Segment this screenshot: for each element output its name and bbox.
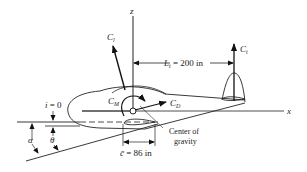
z-axis-label: z [129,6,134,16]
alpha-arrow-bottom [32,144,38,153]
mean-chord-label: c̄ = 86 in [120,148,152,158]
theta-arrow-bottom [54,145,58,150]
drag-label: CD [170,98,181,109]
x-axis-label: x [286,106,291,116]
wing-lift-label: Cl [107,32,115,43]
drag-arrow [135,102,166,110]
aircraft-stability-diagram: z x α θ i = 0 Center of gravity Cl CD CM… [0,0,307,172]
incidence-label: i = 0 [45,100,62,110]
wing-lift-arrow [113,46,125,90]
fuselage-outline [68,87,245,129]
moment-label: CM [108,96,120,107]
tail-arm-label: Lt = 200 in [163,58,204,69]
alpha-label: α [28,135,33,145]
center-of-gravity-marker [130,108,136,114]
theta-label: θ [50,135,55,145]
tail-lift-label: Ct [240,44,248,55]
cg-label-line1: Center of [169,127,199,136]
cg-leader-line [140,106,163,128]
cg-label-line2: gravity [174,137,197,146]
